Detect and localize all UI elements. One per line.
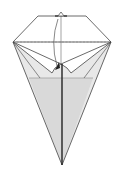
origami-diagram xyxy=(0,0,123,175)
top-marker-icon xyxy=(58,12,64,16)
top-flap xyxy=(13,16,111,42)
shade-band xyxy=(29,78,93,165)
